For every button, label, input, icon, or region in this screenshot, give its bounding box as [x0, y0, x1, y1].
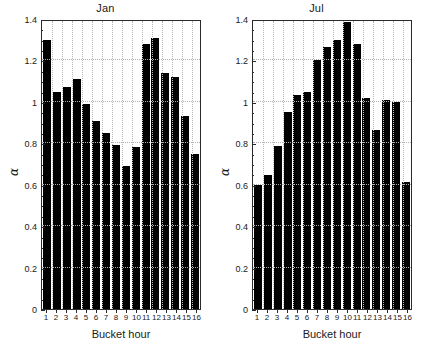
gridline-horizontal [253, 267, 411, 268]
gridline-vertical [283, 21, 284, 309]
x-tick-mark [66, 310, 67, 313]
y-tick-mark-minor [252, 279, 254, 280]
x-tick-mark [407, 310, 408, 313]
y-tick-mark-minor [252, 124, 254, 125]
y-tick-mark-minor [41, 41, 43, 42]
panel-jan: Jan α 00.20.40.60.811.21.4 1234567891011… [0, 0, 211, 362]
y-tick-labels-jul: 00.20.40.60.811.21.4 [211, 20, 248, 310]
y-tick-mark-minor [252, 196, 254, 197]
gridline-horizontal [42, 267, 200, 268]
gridline-vertical [52, 21, 53, 309]
bar [82, 104, 90, 309]
x-tick-label: 3 [62, 311, 70, 325]
x-tick-label: 10 [132, 311, 140, 325]
gridline-vertical [343, 21, 344, 309]
y-tick-mark-minor [252, 248, 254, 249]
y-tick-mark [252, 269, 256, 270]
gridline-vertical [373, 21, 374, 309]
y-tick-mark-minor [252, 51, 254, 52]
y-tick-mark-minor [41, 206, 43, 207]
y-tick-mark-minor [252, 93, 254, 94]
y-tick-mark-minor [41, 196, 43, 197]
gridline-vertical [313, 21, 314, 309]
bar [53, 92, 61, 310]
x-tick-label: 16 [403, 311, 411, 325]
y-tick-label: 0.4 [24, 222, 37, 232]
gridline-vertical [142, 21, 143, 309]
panel-title-jul: Jul [211, 2, 422, 14]
y-tick-mark-minor [41, 51, 43, 52]
y-tick-mark-minor [41, 124, 43, 125]
bar [102, 133, 110, 309]
y-tick-label: 1 [32, 98, 37, 108]
y-tick-mark-minor [252, 30, 254, 31]
gridline-vertical [152, 21, 153, 309]
gridline-vertical [162, 21, 163, 309]
gridline-horizontal [253, 225, 411, 226]
bar [303, 92, 311, 310]
x-tick-label: 6 [303, 311, 311, 325]
x-tick-label: 2 [52, 311, 60, 325]
y-tick-mark-minor [41, 175, 43, 176]
x-axis-label-jul: Bucket hour [252, 328, 412, 340]
gridline-horizontal [42, 101, 200, 102]
y-tick-mark-minor [41, 279, 43, 280]
y-tick-label: 0.6 [235, 181, 248, 191]
gridline-vertical [353, 21, 354, 309]
y-tick-mark [252, 310, 256, 311]
x-tick-label: 1 [253, 311, 261, 325]
x-tick-mark [176, 310, 177, 313]
x-tick-mark [337, 310, 338, 313]
x-tick-label: 8 [323, 311, 331, 325]
gridline-vertical [323, 21, 324, 309]
panel-title-jan: Jan [0, 2, 211, 14]
x-tick-label: 11 [142, 311, 150, 325]
gridline-vertical [363, 21, 364, 309]
x-tick-label: 7 [313, 311, 321, 325]
y-tick-mark-minor [41, 30, 43, 31]
y-tick-mark-minor [252, 41, 254, 42]
x-tick-mark [116, 310, 117, 313]
x-tick-label: 11 [353, 311, 361, 325]
bar [92, 121, 100, 310]
gridline-horizontal [253, 101, 411, 102]
y-tick-mark-minor [252, 82, 254, 83]
y-tick-mark-minor [252, 72, 254, 73]
gridline-vertical [122, 21, 123, 309]
x-tick-label: 5 [82, 311, 90, 325]
x-tick-mark [347, 310, 348, 313]
plot-area-jul [252, 20, 412, 310]
gridline-horizontal [42, 184, 200, 185]
gridline-vertical [333, 21, 334, 309]
x-tick-label: 15 [393, 311, 401, 325]
x-tick-label: 8 [112, 311, 120, 325]
x-tick-mark [397, 310, 398, 313]
x-tick-label: 13 [162, 311, 170, 325]
y-tick-label: 0.4 [235, 222, 248, 232]
y-tick-mark-minor [41, 72, 43, 73]
gridline-vertical [112, 21, 113, 309]
x-tick-label: 12 [152, 311, 160, 325]
x-tick-mark [196, 310, 197, 313]
x-tick-mark [377, 310, 378, 313]
bar [63, 87, 71, 309]
bar [122, 166, 130, 309]
y-tick-mark-minor [252, 206, 254, 207]
bar [333, 40, 341, 309]
y-tick-mark-minor [252, 289, 254, 290]
y-tick-mark [41, 186, 45, 187]
y-tick-mark-minor [252, 175, 254, 176]
y-tick-mark [41, 103, 45, 104]
x-tick-mark [327, 310, 328, 313]
gridline-vertical [182, 21, 183, 309]
x-tick-label: 2 [263, 311, 271, 325]
x-tick-label: 5 [293, 311, 301, 325]
y-tick-label: 1.4 [235, 15, 248, 25]
y-tick-mark [41, 61, 45, 62]
y-tick-label: 1.4 [24, 15, 37, 25]
y-tick-mark-minor [41, 93, 43, 94]
y-tick-mark [252, 227, 256, 228]
y-tick-label: 0.2 [24, 264, 37, 274]
x-tick-label: 10 [343, 311, 351, 325]
plot-area-jan [41, 20, 201, 310]
